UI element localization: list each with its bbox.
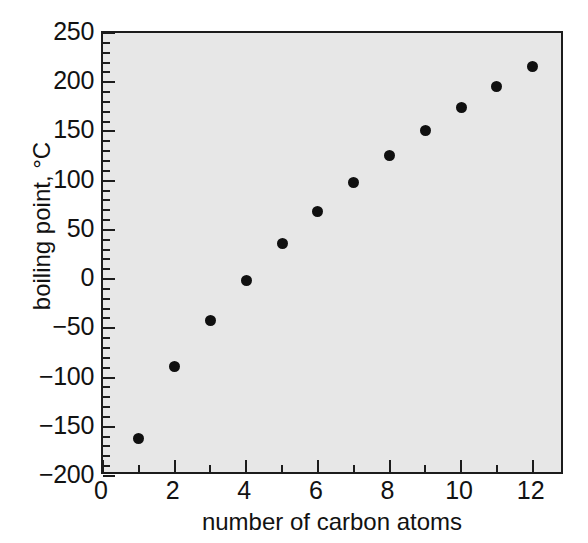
data-point xyxy=(133,433,144,444)
x-axis-major-tick xyxy=(317,460,319,472)
y-axis-minor-tick xyxy=(103,150,110,152)
y-axis-minor-tick xyxy=(103,396,110,398)
x-axis-major-tick xyxy=(389,460,391,472)
y-axis-minor-tick xyxy=(103,121,110,123)
y-axis-tick-label: −100 xyxy=(39,364,94,389)
y-axis-tick-label: 50 xyxy=(67,216,94,241)
y-axis-minor-tick xyxy=(103,386,110,388)
x-axis-tick-label: 12 xyxy=(517,478,545,503)
y-axis-minor-tick xyxy=(103,406,110,408)
x-axis-minor-tick xyxy=(353,465,355,472)
data-point xyxy=(312,206,323,217)
y-axis-tick-label: 250 xyxy=(53,19,94,44)
x-axis-minor-tick xyxy=(496,465,498,472)
y-axis-minor-tick xyxy=(103,436,110,438)
data-point xyxy=(241,275,252,286)
x-axis-tick-labels: 024681012 xyxy=(0,478,588,512)
y-axis-minor-tick xyxy=(103,52,110,54)
y-axis-minor-tick xyxy=(103,298,110,300)
x-axis-tick-label: 4 xyxy=(237,478,251,503)
y-axis-minor-tick xyxy=(103,357,110,359)
y-axis-tick-label: 100 xyxy=(53,167,94,192)
y-axis-minor-tick xyxy=(103,62,110,64)
x-axis-major-tick xyxy=(532,460,534,472)
y-axis-major-tick xyxy=(103,327,115,329)
y-axis-minor-tick xyxy=(103,71,110,73)
y-axis-minor-tick xyxy=(103,111,110,113)
x-axis-tick-label: 2 xyxy=(166,478,180,503)
y-axis-minor-tick xyxy=(103,268,110,270)
data-point xyxy=(348,177,359,188)
data-point xyxy=(169,361,180,372)
x-axis-title: number of carbon atoms xyxy=(101,508,563,536)
y-axis-minor-tick xyxy=(103,455,110,457)
y-axis-major-tick xyxy=(103,81,115,83)
data-point xyxy=(456,102,467,113)
y-axis-minor-tick xyxy=(103,288,110,290)
data-point xyxy=(491,81,502,92)
y-axis-major-tick xyxy=(103,229,115,231)
y-axis-minor-tick xyxy=(103,91,110,93)
x-axis-tick-label: 8 xyxy=(381,478,395,503)
data-point xyxy=(420,125,431,136)
y-axis-minor-tick xyxy=(103,416,110,418)
x-axis-major-tick xyxy=(102,460,104,472)
y-axis-minor-tick xyxy=(103,258,110,260)
scatter-chart-figure: boiling point, °C −200−150−100−500501001… xyxy=(0,0,588,543)
data-point xyxy=(527,61,538,72)
y-axis-minor-tick xyxy=(103,209,110,211)
data-point xyxy=(384,150,395,161)
y-axis-tick-label: −150 xyxy=(39,413,94,438)
x-axis-tick-label: 6 xyxy=(309,478,323,503)
y-axis-minor-tick xyxy=(103,190,110,192)
x-axis-tick-label: 10 xyxy=(445,478,473,503)
y-axis-minor-tick xyxy=(103,317,110,319)
y-axis-major-tick xyxy=(103,426,115,428)
y-axis-minor-tick xyxy=(103,170,110,172)
y-axis-tick-label: 0 xyxy=(80,265,94,290)
y-axis-minor-tick xyxy=(103,367,110,369)
y-axis-minor-tick xyxy=(103,42,110,44)
x-axis-minor-tick xyxy=(424,465,426,472)
x-axis-major-tick xyxy=(174,460,176,472)
y-axis-major-tick xyxy=(103,278,115,280)
y-axis-minor-tick xyxy=(103,160,110,162)
y-axis-major-tick xyxy=(103,180,115,182)
x-axis-major-tick xyxy=(245,460,247,472)
y-axis-major-tick xyxy=(103,130,115,132)
y-axis-minor-tick xyxy=(103,445,110,447)
x-axis-minor-tick xyxy=(209,465,211,472)
y-axis-minor-tick xyxy=(103,337,110,339)
y-axis-major-tick xyxy=(103,32,115,34)
y-axis-minor-tick xyxy=(103,140,110,142)
y-axis-minor-tick xyxy=(103,347,110,349)
x-axis-minor-tick xyxy=(281,465,283,472)
y-axis-tick-label: 150 xyxy=(53,117,94,142)
y-axis-minor-tick xyxy=(103,219,110,221)
y-axis-major-tick xyxy=(103,377,115,379)
y-axis-minor-tick xyxy=(103,465,110,467)
y-axis-minor-tick xyxy=(103,308,110,310)
y-axis-minor-tick xyxy=(103,199,110,201)
plot-area xyxy=(101,31,563,474)
y-axis-minor-tick xyxy=(103,239,110,241)
x-axis-major-tick xyxy=(460,460,462,472)
x-axis-minor-tick xyxy=(138,465,140,472)
y-axis-tick-label: −50 xyxy=(52,314,94,339)
data-point xyxy=(277,238,288,249)
y-axis-minor-tick xyxy=(103,101,110,103)
y-axis-minor-tick xyxy=(103,249,110,251)
y-axis-tick-label: 200 xyxy=(53,68,94,93)
data-point xyxy=(205,315,216,326)
x-axis-tick-label: 0 xyxy=(94,478,108,503)
